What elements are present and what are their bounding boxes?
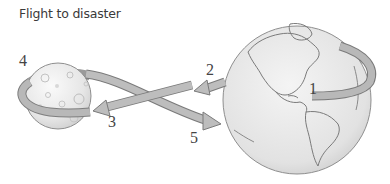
diagram-canvas: Flight to disaster	[0, 0, 390, 184]
moon-icon	[25, 63, 91, 129]
step-label-3: 3	[108, 113, 116, 131]
diagram-art	[0, 0, 390, 184]
step-label-4: 4	[19, 52, 27, 70]
step-label-2: 2	[206, 61, 214, 79]
trajectory-arrow-2	[194, 80, 225, 95]
step-label-1: 1	[309, 80, 317, 98]
step-label-5: 5	[190, 129, 198, 147]
